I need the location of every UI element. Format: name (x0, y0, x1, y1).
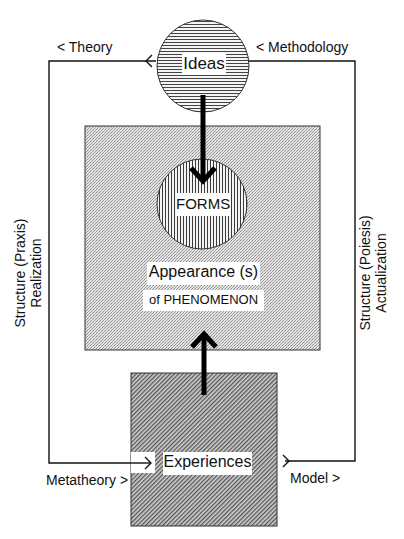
left-side-label-line1: Structure (Praxis) (13, 203, 29, 343)
left-side-label: Structure (Praxis) Realization (13, 203, 47, 343)
right-side-label-line2: Actualization (374, 203, 390, 343)
phenomenon-label: of PHENOMENON (143, 290, 264, 311)
ideas-label: Ideas (182, 53, 226, 75)
metatheory-label: Metatheory > (46, 473, 128, 487)
methodology-label: < Methodology (256, 40, 348, 54)
model-label: Model > (290, 471, 340, 485)
appearance-label: Appearance (s) (147, 262, 260, 285)
right-side-label-line1: Structure (Poiesis) (358, 203, 374, 343)
forms-label: FORMS (176, 193, 230, 216)
right-side-label: Structure (Poiesis) Actualization (358, 203, 392, 343)
theory-label: < Theory (57, 40, 112, 54)
experiences-box (131, 373, 277, 526)
experiences-label: Experiences (163, 452, 252, 475)
left-side-label-line2: Realization (29, 203, 45, 343)
